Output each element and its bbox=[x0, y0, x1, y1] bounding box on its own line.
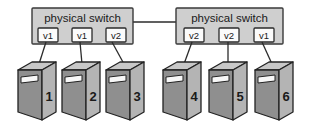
port-right-3-label: v1 bbox=[259, 30, 269, 41]
server-3-label: 3 bbox=[133, 89, 140, 104]
server-4-drive-slot-icon bbox=[166, 75, 183, 83]
switch-left[interactable]: physical switch v1 v1 v2 bbox=[32, 8, 133, 44]
cable-port-right-1-to-server-4 bbox=[184, 42, 192, 64]
cable-port-left-2-to-server-2 bbox=[80, 42, 82, 64]
diagram-canvas: physical switch v1 v1 v2 physical switch… bbox=[0, 0, 309, 132]
server-2-drive-slot-icon bbox=[65, 75, 82, 83]
port-left-2[interactable]: v1 bbox=[72, 28, 92, 42]
server-4[interactable]: 4 bbox=[163, 62, 201, 120]
port-left-1[interactable]: v1 bbox=[38, 28, 58, 42]
network-diagram: physical switch v1 v1 v2 physical switch… bbox=[0, 0, 309, 132]
server-3[interactable]: 3 bbox=[106, 62, 144, 120]
server-2-label: 2 bbox=[89, 89, 96, 104]
cable-port-left-1-to-server-1 bbox=[39, 42, 46, 64]
server-2[interactable]: 2 bbox=[62, 62, 100, 120]
port-right-3[interactable]: v1 bbox=[254, 28, 274, 42]
port-right-2[interactable]: v2 bbox=[219, 28, 239, 42]
server-6-label: 6 bbox=[282, 89, 289, 104]
switch-right-label: physical switch bbox=[191, 12, 268, 24]
port-left-2-label: v1 bbox=[77, 30, 87, 41]
server-5[interactable]: 5 bbox=[209, 62, 247, 120]
port-left-3-label: v2 bbox=[111, 30, 121, 41]
server-5-drive-slot-icon bbox=[212, 75, 229, 83]
port-left-3[interactable]: v2 bbox=[106, 28, 126, 42]
server-3-drive-slot-icon bbox=[109, 75, 126, 83]
cable-port-left-3-to-server-3 bbox=[112, 42, 124, 64]
port-left-1-label: v1 bbox=[43, 30, 53, 41]
server-1-drive-slot-icon bbox=[21, 75, 38, 83]
server-6[interactable]: 6 bbox=[255, 62, 293, 120]
cable-port-right-3-to-server-6 bbox=[262, 42, 272, 64]
server-1-label: 1 bbox=[45, 89, 52, 104]
port-right-2-label: v2 bbox=[224, 30, 234, 41]
port-right-1[interactable]: v2 bbox=[184, 28, 204, 42]
port-right-1-label: v2 bbox=[189, 30, 199, 41]
switch-right[interactable]: physical switch v2 v2 v1 bbox=[176, 8, 283, 44]
server-5-label: 5 bbox=[236, 89, 243, 104]
switch-left-label: physical switch bbox=[44, 12, 121, 24]
server-6-drive-slot-icon bbox=[258, 75, 275, 83]
server-4-label: 4 bbox=[190, 89, 198, 104]
server-1[interactable]: 1 bbox=[18, 62, 56, 120]
